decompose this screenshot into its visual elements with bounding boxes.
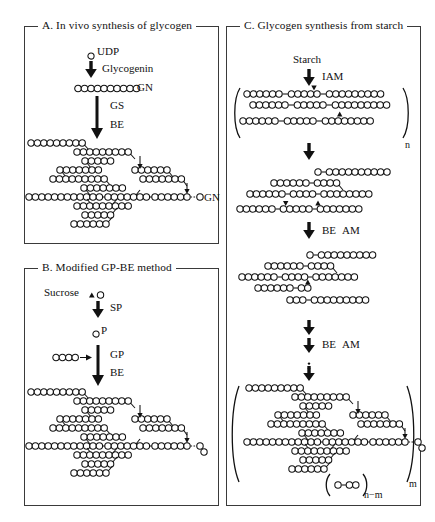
panel-b-gp-label: GP [110, 348, 124, 360]
panel-c-residual-subscript: n−m [364, 489, 382, 500]
panel-a-glycogenin-label: Glycogenin [102, 62, 153, 74]
panel-a-glycogenin-arrow [84, 61, 98, 79]
panel-c-am-label-1: AM [342, 224, 360, 236]
panel-b-title: B. Modified GP-BE method [38, 261, 176, 273]
panel-b-gp-be-arrow [91, 345, 105, 387]
panel-a-primer-gn-label: GN [137, 81, 153, 93]
panel-b-terminal-circle [199, 443, 209, 461]
panel-c-be-label-2: BE [322, 338, 336, 350]
figure-canvas: A. In vivo synthesis of glycogen UDP Gly… [0, 0, 435, 522]
panel-b-sp-label: SP [110, 301, 122, 313]
panel-c-starch-chains-stage1 [243, 89, 407, 97]
panel-b-glycogen-structure [27, 387, 205, 395]
panel-c-starch-label: Starch [293, 53, 321, 65]
panel-c-am-label-2: AM [342, 338, 360, 350]
panel-b-phosphate-label: P [101, 324, 107, 336]
panel-a-primer-chain [73, 83, 145, 91]
panel-c-final-arrow [302, 366, 316, 382]
panel-c-be-am-arrow-1 [302, 222, 316, 240]
panel-c-bracket-m-subscript: m [409, 478, 417, 489]
panel-c-chains-stage2 [230, 167, 410, 175]
panel-a-product-gn-label: GN [204, 191, 220, 203]
panel-c-stage2-arrow [302, 143, 316, 161]
panel-b-sucrose-label: Sucrose [44, 286, 79, 298]
panel-c-glycogen-structure [245, 383, 423, 391]
panel-a-udp-label: UDP [97, 45, 119, 57]
panel-c-bracket-n-subscript: n [405, 139, 410, 150]
panel-c-title: C. Glycogen synthesis from starch [240, 19, 407, 31]
panel-c-iam-label: IAM [322, 70, 343, 82]
panel-b-be-label: BE [110, 366, 124, 378]
panel-a-gs-label: GS [110, 99, 124, 111]
panel-c-terminal-circle [417, 439, 427, 457]
panel-a-title: A. In vivo synthesis of glycogen [38, 19, 196, 31]
panel-b-phosphate-symbol [91, 325, 101, 343]
panel-a-gs-be-arrow [90, 96, 104, 140]
panel-c-be-label-1: BE [322, 224, 336, 236]
panel-c-be-am-arrow-2b [302, 338, 316, 354]
panel-c-chains-stage3 [230, 250, 410, 258]
panel-a-be-label: BE [110, 118, 124, 130]
panel-a-glycogen-structure [27, 138, 205, 146]
panel-c-be-am-arrow-2a [302, 320, 316, 336]
panel-b-sp-arrow [91, 301, 105, 319]
